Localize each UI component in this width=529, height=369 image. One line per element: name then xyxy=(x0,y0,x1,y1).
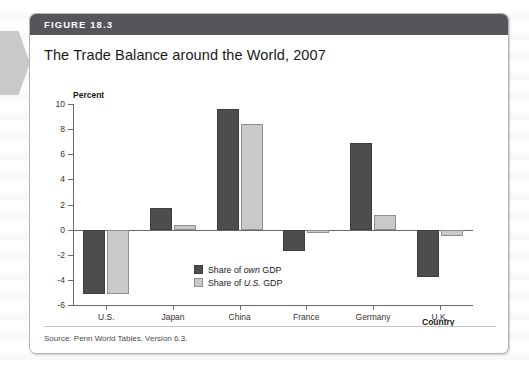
y-tick-label: 4 xyxy=(60,174,65,184)
y-tick-label: -4 xyxy=(57,275,65,285)
bar-japan-own xyxy=(150,208,172,229)
x-tick-label: U.S. xyxy=(98,312,115,322)
bar-france-own xyxy=(283,230,305,251)
bar-uk-us xyxy=(441,230,463,236)
x-tick-mark xyxy=(440,305,441,310)
legend-swatch xyxy=(194,278,203,287)
legend-swatch xyxy=(194,265,203,274)
bar-germany-own xyxy=(350,143,372,230)
y-tick-label: 2 xyxy=(60,200,65,210)
chart-plot-area: 1086420-2-4-6 U.S.JapanChinaFranceGerman… xyxy=(30,14,509,354)
x-tick-mark xyxy=(306,305,307,310)
bar-germany-us xyxy=(374,215,396,230)
bar-france-us xyxy=(307,230,329,234)
legend-item: Share of own GDP xyxy=(194,263,282,276)
legend-label: Share of own GDP xyxy=(208,265,281,275)
y-tick-label: -2 xyxy=(57,250,65,260)
x-tick-mark xyxy=(240,305,241,310)
chart-legend: Share of own GDPShare of U.S. GDP xyxy=(194,263,282,289)
y-tick-label: 0 xyxy=(60,225,65,235)
bar-japan-us xyxy=(174,225,196,230)
x-tick-mark xyxy=(373,305,374,310)
source-note: Source: Penn World Tables, Version 6.3. xyxy=(44,334,187,343)
source-divider xyxy=(44,326,496,327)
y-tick-label: 8 xyxy=(60,124,65,134)
x-tick-label: China xyxy=(229,312,251,322)
x-tick-label: Japan xyxy=(161,312,184,322)
legend-item: Share of U.S. GDP xyxy=(194,276,282,289)
bar-us-own xyxy=(83,230,105,294)
figure-container: FIGURE 18.3 The Trade Balance around the… xyxy=(29,13,509,354)
bar-china-own xyxy=(217,109,239,230)
y-tick-label: 6 xyxy=(60,149,65,159)
x-tick-label: Germany xyxy=(356,312,391,322)
bar-china-us xyxy=(241,124,263,230)
bar-us-us xyxy=(107,230,129,294)
y-tick-label: -6 xyxy=(57,300,65,310)
x-tick-label: France xyxy=(293,312,319,322)
x-axis-line xyxy=(73,305,473,306)
y-tick-label: 10 xyxy=(56,99,65,109)
x-tick-mark xyxy=(173,305,174,310)
margin-arrow-tab xyxy=(0,31,30,95)
x-tick-mark xyxy=(106,305,107,310)
legend-label: Share of U.S. GDP xyxy=(208,278,282,288)
bar-uk-own xyxy=(417,230,439,278)
